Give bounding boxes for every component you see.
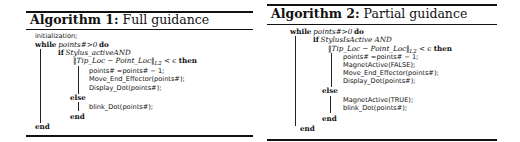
statement-text: MagnetActive(TRUE); [343, 96, 413, 104]
if-keyword: if [58, 48, 64, 57]
end-while-line: end [300, 125, 315, 133]
then-block-bar [78, 66, 79, 94]
init-line: initialization; [35, 32, 77, 40]
stmt-line: blink_Dot(points#); [343, 104, 407, 112]
init-text: initialization; [35, 32, 77, 40]
end-if-line: end [70, 113, 85, 121]
while-block-bar [40, 49, 41, 123]
stmt-line: points# =points# − 1; [89, 67, 164, 75]
norm-subscript: L2 [155, 60, 162, 66]
end-if-line: end [322, 115, 337, 123]
else-block-bar [330, 96, 331, 113]
algorithm-2-box: Algorithm 2: Partial guidance while poin… [267, 0, 497, 142]
stmt-line: MagnetActive(TRUE); [343, 96, 413, 104]
bottom-rule [26, 135, 253, 137]
statement-text: points# =points# − 1; [89, 67, 164, 75]
then-block-bar [331, 53, 332, 87]
algorithm-label: Algorithm 1: [30, 12, 119, 27]
norm-expression: ‖Tip_Loc − Point_Loc‖ [73, 56, 155, 65]
stmt-line: Move_End_Effector(points#); [343, 69, 439, 77]
end-keyword: end [35, 122, 50, 131]
algorithm-label: Algorithm 2: [271, 6, 360, 21]
if-keyword: if [313, 35, 319, 44]
stmt-line: MagnetActive(FALSE); [343, 61, 415, 69]
statement-text: Move_End_Effector(points#); [343, 69, 439, 77]
else-block-bar [78, 102, 79, 111]
bottom-rule [267, 139, 497, 141]
statement-text: Move_End_Effector(points#); [89, 75, 185, 83]
else-line: else [70, 94, 86, 102]
while-keyword: while [290, 27, 311, 36]
algorithm-name: Full guidance [123, 12, 210, 27]
algorithm-1-title: Algorithm 1: Full guidance [30, 13, 209, 27]
norm-relation: < ϵ [162, 56, 179, 65]
end-keyword: end [322, 114, 337, 123]
stmt-line: blink_Dot(points#); [89, 103, 153, 111]
norm-line: ‖Tip_Loc − Point_Loc‖L2 < ϵ then [73, 57, 197, 67]
stmt-line: points# =points# − 1; [343, 53, 418, 61]
end-keyword: end [300, 124, 315, 133]
while-keyword: while [35, 40, 56, 49]
else-keyword: else [322, 86, 338, 95]
title-rule [267, 24, 497, 25]
if-line: if StylusIsActive AND [313, 36, 392, 44]
else-line: else [322, 87, 338, 95]
stmt-line: Display_Dot(points#); [343, 77, 415, 85]
else-keyword: else [70, 93, 86, 102]
statement-text: blink_Dot(points#); [343, 104, 407, 112]
stmt-line: Move_End_Effector(points#); [89, 75, 185, 83]
algorithm-1-box: Algorithm 1: Full guidance initializatio… [26, 0, 253, 142]
norm-relation: < ϵ [417, 44, 434, 53]
end-while-line: end [35, 123, 50, 131]
statement-text: Display_Dot(points#); [89, 84, 161, 92]
norm-expression: ‖Tip_Loc − Point_Loc‖ [328, 44, 410, 53]
statement-text: Display_Dot(points#); [343, 77, 415, 85]
if-condition: StylusIsActive AND [321, 35, 392, 44]
algorithm-name: Partial guidance [364, 6, 468, 21]
end-keyword: end [70, 112, 85, 121]
stmt-line: Display_Dot(points#); [89, 84, 161, 92]
statement-text: MagnetActive(FALSE); [343, 61, 415, 69]
then-keyword: then [179, 56, 197, 65]
statement-text: blink_Dot(points#); [89, 103, 153, 111]
then-keyword: then [434, 44, 452, 53]
while-block-bar [295, 36, 296, 126]
algorithm-2-title: Algorithm 2: Partial guidance [271, 7, 467, 21]
statement-text: points# =points# − 1; [343, 53, 418, 61]
title-rule [26, 29, 253, 30]
